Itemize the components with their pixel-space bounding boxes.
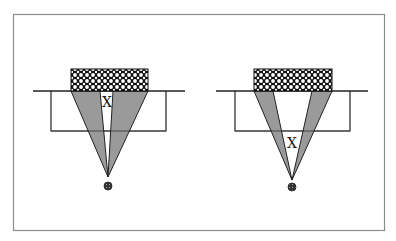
right-panel: X	[216, 69, 368, 191]
left-panel: X	[33, 69, 185, 190]
diagram-canvas: X X	[0, 0, 396, 241]
left-x-label: X	[102, 94, 112, 110]
left-hatched-block	[71, 69, 148, 91]
right-focal-dot	[288, 183, 296, 191]
left-focal-dot	[104, 182, 112, 190]
right-x-label: X	[287, 135, 297, 151]
right-box	[235, 91, 350, 131]
outer-frame	[14, 15, 385, 231]
right-hatched-block	[254, 69, 332, 91]
